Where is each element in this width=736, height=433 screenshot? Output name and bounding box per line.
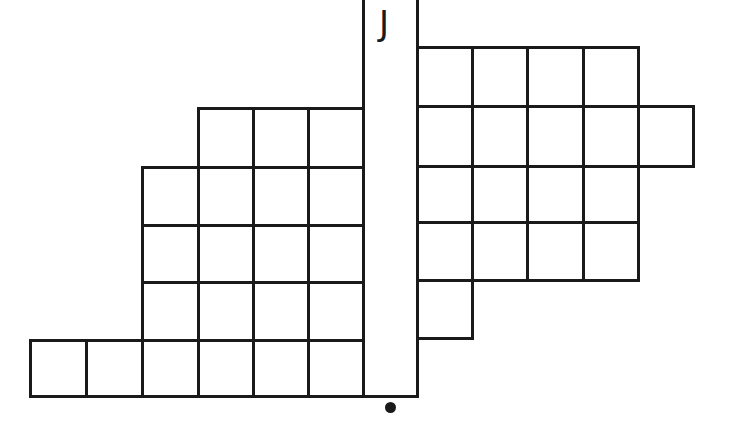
right-grid-cell: [526, 165, 585, 224]
left-grid-cell: [141, 281, 200, 342]
left-grid-cell: [197, 224, 255, 284]
left-grid-cell: [307, 224, 365, 284]
left-grid-cell: [307, 166, 365, 227]
right-grid-cell: [416, 46, 474, 108]
diagram-canvas: J: [0, 0, 736, 433]
left-grid-cell: [141, 166, 200, 227]
right-grid-cell: [416, 221, 474, 282]
right-grid-cell: [526, 105, 585, 168]
left-grid-cell: [141, 224, 200, 284]
left-grid-cell: [252, 166, 310, 227]
marker-dot: [385, 402, 396, 413]
right-grid-cell: [637, 105, 695, 168]
left-grid-cell: [252, 339, 310, 398]
right-grid-cell: [471, 46, 529, 108]
right-grid-cell: [416, 105, 474, 168]
right-grid-cell: [582, 221, 640, 282]
left-grid-cell: [141, 339, 200, 398]
left-grid-cell: [29, 339, 88, 398]
left-grid-cell: [252, 281, 310, 342]
left-grid-cell: [197, 107, 255, 169]
left-grid-cell: [252, 107, 310, 169]
strip-label: J: [379, 6, 389, 40]
left-grid-cell: [252, 224, 310, 284]
left-grid-cell: [307, 339, 365, 398]
right-grid-cell: [471, 221, 529, 282]
right-grid-cell: [582, 105, 640, 168]
right-grid-cell: [471, 165, 529, 224]
left-grid-cell: [197, 281, 255, 342]
right-grid-cell: [471, 105, 529, 168]
right-grid-cell: [582, 165, 640, 224]
left-grid-cell: [197, 339, 255, 398]
vertical-strip-j: J: [362, 0, 419, 398]
right-grid-cell: [526, 221, 585, 282]
left-grid-cell: [307, 281, 365, 342]
left-grid-cell: [197, 166, 255, 227]
right-grid-cell: [526, 46, 585, 108]
right-grid-cell: [582, 46, 640, 108]
left-grid-cell: [85, 339, 144, 398]
left-grid-cell: [307, 107, 365, 169]
right-grid-cell: [416, 279, 474, 340]
right-grid-cell: [416, 165, 474, 224]
